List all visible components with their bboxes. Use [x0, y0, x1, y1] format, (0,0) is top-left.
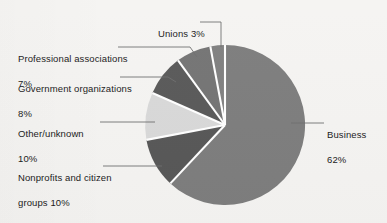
- slice-label-business-line2: 62%: [327, 154, 366, 167]
- slice-label-government-line1: Government organizations: [18, 83, 132, 96]
- slice-label-other-unknown-line1: Other/unknown: [18, 128, 84, 141]
- slice-label-nonprofits-line1: Nonprofits and citizen: [18, 172, 112, 185]
- pie-chart-figure: Unions 3% Professional associations 7% G…: [0, 0, 387, 223]
- slice-label-business-line1: Business: [327, 129, 366, 142]
- slice-label-unions: Unions 3%: [158, 15, 205, 40]
- slice-label-unions-text: Unions 3%: [158, 28, 205, 39]
- slice-label-professional-line1: Professional associations: [18, 53, 128, 66]
- slice-label-nonprofits-line2: groups 10%: [18, 197, 112, 210]
- slice-label-business: Business 62%: [327, 116, 366, 179]
- slice-label-nonprofits: Nonprofits and citizen groups 10%: [18, 159, 112, 222]
